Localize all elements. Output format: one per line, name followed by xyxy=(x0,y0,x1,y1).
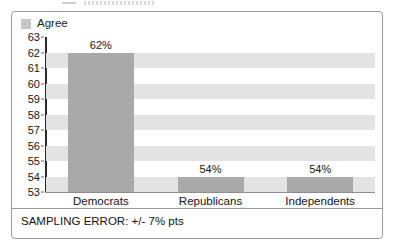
bar-value-label: 54% xyxy=(309,164,331,175)
plot-frame: 6362616059585756555453 62%54%54% Democra… xyxy=(21,37,375,197)
bar-value-label: 62% xyxy=(90,40,112,51)
bar-value-label: 54% xyxy=(199,164,221,175)
bar-slot: 54% xyxy=(156,37,266,192)
x-category-label: Independents xyxy=(265,194,375,208)
y-tick-label: 58 xyxy=(21,109,40,120)
y-tick-label: 62 xyxy=(21,47,40,58)
y-tick-label: 57 xyxy=(21,125,40,136)
cropped-text-artifact-dash xyxy=(62,2,76,4)
sampling-error-note: SAMPLING ERROR: +/- 7% pts xyxy=(21,215,184,229)
y-tick-label: 59 xyxy=(21,94,40,105)
chart-card: Agree 6362616059585756555453 62%54%54% D… xyxy=(11,11,383,239)
legend-swatch-agree xyxy=(21,19,31,29)
x-category-label: Republicans xyxy=(156,194,266,208)
y-axis-tick-labels: 6362616059585756555453 xyxy=(21,37,40,192)
y-tick-label: 63 xyxy=(21,32,40,43)
plot-area: 62%54%54% xyxy=(46,37,375,192)
y-tick-label: 53 xyxy=(21,187,40,198)
y-tick-label: 54 xyxy=(21,171,40,182)
bar-democrats[interactable]: 62% xyxy=(68,53,134,193)
chart-screenshot: Agree 6362616059585756555453 62%54%54% D… xyxy=(0,0,395,252)
y-tick-label: 55 xyxy=(21,156,40,167)
x-axis-line xyxy=(45,192,375,193)
y-tick-label: 61 xyxy=(21,63,40,74)
bar-series-agree: 62%54%54% xyxy=(46,37,375,192)
bar-slot: 62% xyxy=(46,37,156,192)
x-category-label: Democrats xyxy=(46,194,156,208)
x-axis-category-labels: DemocratsRepublicansIndependents xyxy=(46,194,375,208)
y-tick-label: 60 xyxy=(21,78,40,89)
y-tick-label: 56 xyxy=(21,140,40,151)
bar-republicans[interactable]: 54% xyxy=(178,177,244,193)
legend-label-agree: Agree xyxy=(37,18,68,30)
cropped-text-artifact xyxy=(84,1,156,5)
bar-slot: 54% xyxy=(265,37,375,192)
chart-legend: Agree xyxy=(21,18,68,30)
bar-independents[interactable]: 54% xyxy=(287,177,353,193)
footer-divider xyxy=(12,208,382,209)
